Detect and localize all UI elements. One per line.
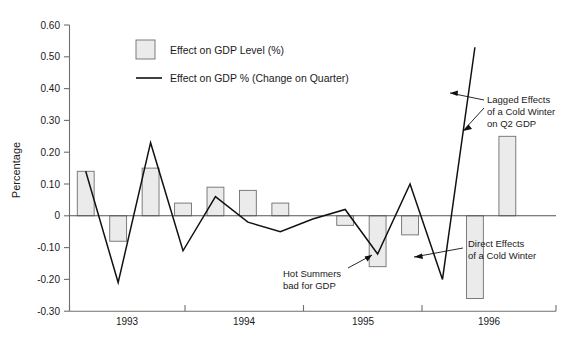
- annotation-hot-summers-line1: Hot Summers: [283, 268, 341, 279]
- legend-label-bar: Effect on GDP Level (%): [170, 44, 284, 56]
- annotation-lagged-effects-line3: on Q2 GDP: [487, 118, 536, 129]
- y-tick-label: 0.40: [41, 83, 61, 94]
- x-tick-label: 1995: [352, 316, 375, 327]
- annotation-direct-effects-line1: Direct Effects: [468, 238, 525, 249]
- bar: [175, 203, 192, 216]
- chart-figure: 0.60 0.50 0.40 0.30 0.20 0.10 0 -0.10 -0…: [0, 0, 567, 343]
- annotation-lagged-effects-line2: of a Cold Winter: [487, 106, 555, 117]
- y-tick-label: 0.60: [41, 20, 61, 31]
- y-tick-label: -0.20: [37, 274, 60, 285]
- annotation-hot-summers-line2: bad for GDP: [283, 280, 336, 291]
- x-tick-label: 1994: [233, 316, 256, 327]
- y-tick-label: -0.10: [37, 242, 60, 253]
- annotation-direct-effects-line2: of a Cold Winter: [468, 250, 536, 261]
- bar: [499, 136, 516, 216]
- bar: [272, 203, 289, 216]
- y-tick-label: 0.10: [41, 179, 61, 190]
- y-tick-label: 0.30: [41, 115, 61, 126]
- y-tick-label: -0.30: [37, 306, 60, 317]
- x-tick-label: 1996: [478, 316, 501, 327]
- bar: [110, 216, 127, 241]
- annotation-lagged-effects-line1: Lagged Effects: [487, 94, 550, 105]
- legend-swatch-bar: [136, 40, 155, 59]
- y-tick-label: 0: [54, 210, 60, 221]
- x-tick-label: 1993: [116, 316, 139, 327]
- y-axis-title: Percentage: [10, 142, 22, 198]
- bar: [142, 168, 159, 216]
- y-tick-label: 0.50: [41, 51, 61, 62]
- bar: [402, 216, 419, 235]
- chart-svg: 0.60 0.50 0.40 0.30 0.20 0.10 0 -0.10 -0…: [0, 0, 567, 343]
- bar: [239, 190, 256, 215]
- y-tick-label: 0.20: [41, 147, 61, 158]
- legend-label-line: Effect on GDP % (Change on Quarter): [170, 72, 349, 84]
